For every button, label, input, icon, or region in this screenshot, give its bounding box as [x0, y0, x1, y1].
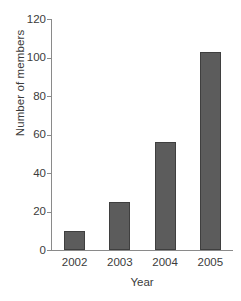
- x-axis-tick-label: 2004: [143, 255, 187, 269]
- y-axis-tick-label: 40: [20, 167, 46, 180]
- bar: [200, 52, 221, 250]
- y-axis-tick-labels: 020406080100120: [18, 0, 46, 301]
- bar: [109, 202, 130, 250]
- y-axis-tick-label: 20: [20, 205, 46, 218]
- y-axis-tick-label: 100: [20, 51, 46, 64]
- x-axis-tick-label: 2005: [188, 255, 232, 269]
- x-axis-tick-label: 2002: [53, 255, 97, 269]
- y-axis-tick-label: 0: [20, 244, 46, 257]
- y-axis-tick-mark: [47, 212, 52, 213]
- x-axis-line: [51, 250, 233, 251]
- plot-area: [52, 19, 233, 250]
- y-axis-tick-label: 120: [20, 13, 46, 26]
- y-axis-tick-mark: [47, 135, 52, 136]
- bar: [64, 231, 85, 250]
- y-axis-tick-label: 80: [20, 90, 46, 103]
- y-axis-tick-mark: [47, 173, 52, 174]
- y-axis-tick-mark: [47, 58, 52, 59]
- x-axis-tick-label: 2003: [98, 255, 142, 269]
- y-axis-tick-mark: [47, 96, 52, 97]
- y-axis-tick-label: 60: [20, 128, 46, 141]
- bar-chart: Number of members 020406080100120 200220…: [0, 0, 241, 301]
- bar: [155, 142, 176, 250]
- x-axis-title: Year: [51, 275, 233, 290]
- y-axis-tick-mark: [47, 250, 52, 251]
- y-axis-tick-mark: [47, 19, 52, 20]
